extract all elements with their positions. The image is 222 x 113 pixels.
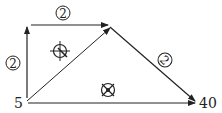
edge-label-top-text: 2 (59, 7, 67, 21)
diagonal-up-arrow (27, 28, 110, 101)
diagonal-down-arrow (110, 27, 195, 101)
circled-cross-symbol (50, 41, 70, 61)
flow-diagram: 2 2 2 5 40 (0, 0, 222, 113)
source-node-label: 5 (14, 95, 23, 111)
circled-x-symbol (102, 84, 115, 97)
edge-label-left: 2 (6, 56, 20, 71)
edge-label-left-text: 2 (9, 57, 17, 71)
edge-label-top: 2 (56, 6, 70, 21)
edge-label-right-text: 2 (157, 53, 172, 68)
edge-label-right-diagonal: 2 (155, 50, 175, 70)
sink-node-label: 40 (199, 95, 217, 111)
